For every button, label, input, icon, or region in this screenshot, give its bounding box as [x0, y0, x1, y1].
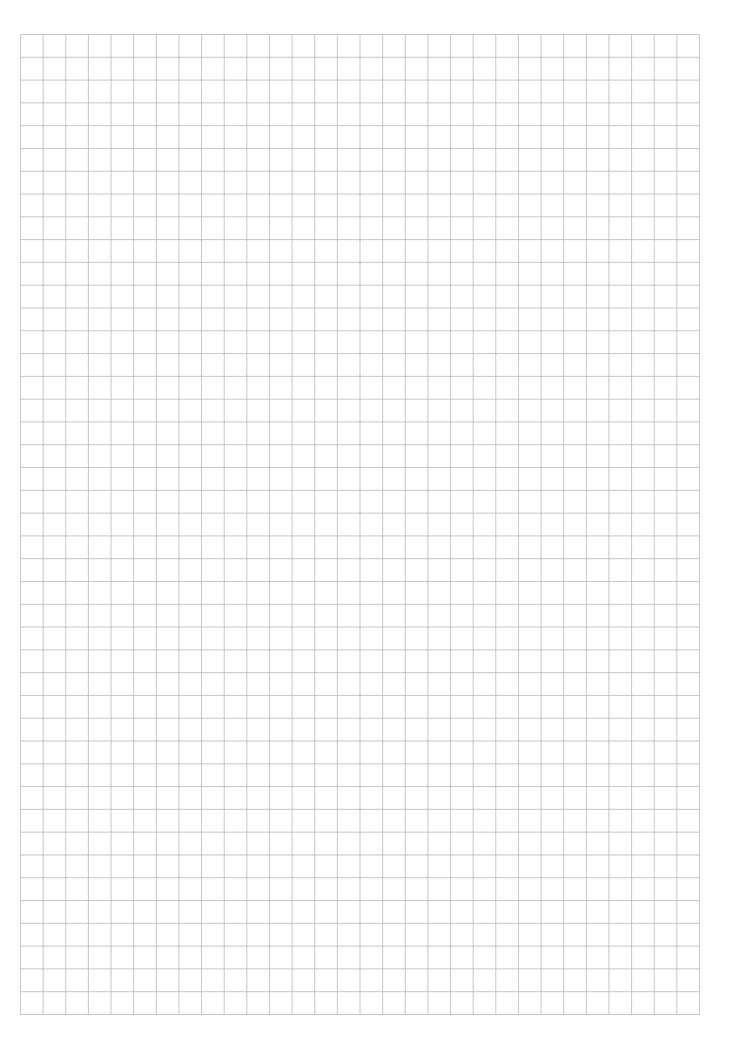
grid-paper: [20, 34, 700, 1015]
